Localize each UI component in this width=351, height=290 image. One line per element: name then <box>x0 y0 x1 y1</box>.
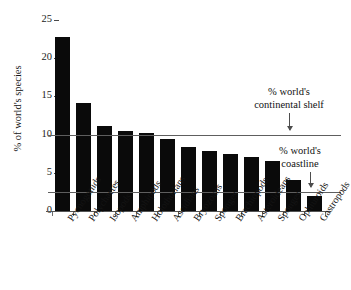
annotation-coastline-line1: % world's <box>258 145 342 158</box>
y-axis-title: % of world's species <box>12 49 23 169</box>
y-tick-label-10: 10 <box>26 128 52 140</box>
y-tick-label-0: 0 <box>26 204 52 216</box>
y-tick-label-5: 5 <box>26 166 52 178</box>
annotation-shelf-line1: % world's <box>233 86 345 99</box>
y-tick-label-20: 20 <box>26 51 52 63</box>
bar-pycnogonids-0 <box>55 37 70 211</box>
y-tick-label-25: 25 <box>26 13 52 25</box>
annotation-shelf-arrow-icon <box>289 113 290 130</box>
annotation-continental-shelf: % world's continental shelf <box>233 86 345 111</box>
x-tick-mark-0 <box>52 212 53 216</box>
bar-chart-figure: % of world's species 0510152025 Pycnogon… <box>0 0 351 290</box>
annotation-coastline: % world's coastline <box>258 145 342 170</box>
y-tick-label-15: 15 <box>26 89 52 101</box>
annotation-coastline-line2: coastline <box>258 158 342 171</box>
reference-line-continental-shelf <box>48 135 341 136</box>
annotation-shelf-line2: continental shelf <box>233 99 345 112</box>
annotation-coastline-arrow-icon <box>310 172 311 187</box>
